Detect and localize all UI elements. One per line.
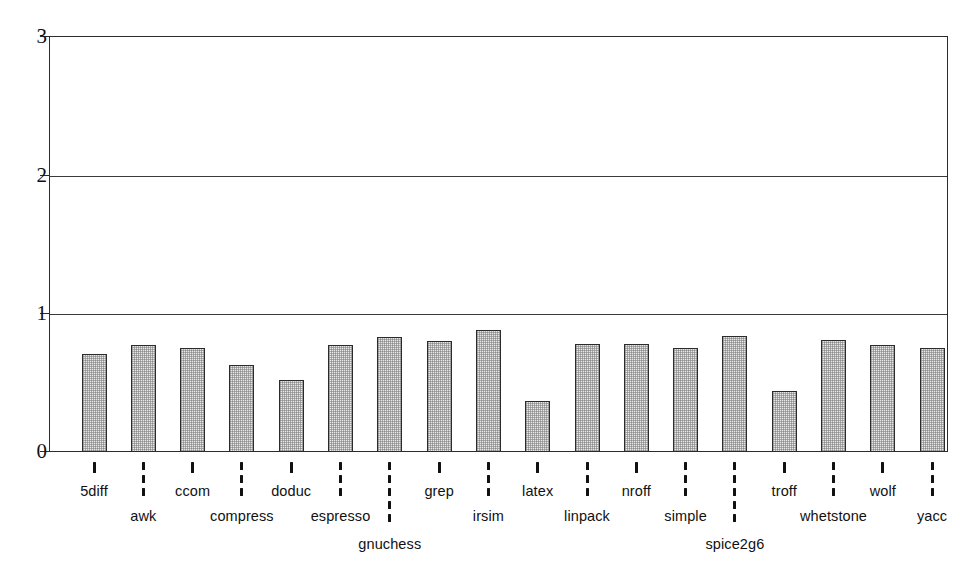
x-tick-dash: [339, 475, 342, 483]
bar: [772, 391, 797, 452]
x-tick-dash: [586, 475, 589, 483]
x-tick-dash: [142, 475, 145, 483]
bar: [180, 348, 205, 452]
x-tick-dash: [684, 488, 687, 496]
x-tick-dash: [733, 514, 736, 522]
x-tick-mark: [93, 462, 96, 473]
x-axis-label: compress: [210, 508, 274, 524]
x-axis-label: spice2g6: [705, 536, 764, 552]
bar: [82, 354, 107, 452]
x-tick-dash: [388, 475, 391, 483]
x-tick-dash: [586, 488, 589, 496]
x-axis-label: 5diff: [80, 483, 108, 499]
bar: [722, 336, 747, 452]
bar: [575, 344, 600, 452]
x-tick-dash: [388, 514, 391, 522]
x-axis-label: simple: [664, 508, 707, 524]
x-axis-label: irsim: [473, 508, 504, 524]
x-tick-mark: [783, 462, 786, 473]
x-axis-label: ccom: [175, 483, 210, 499]
x-axis-label: linpack: [564, 508, 610, 524]
bar: [821, 340, 846, 452]
bar: [427, 341, 452, 452]
bar: [377, 337, 402, 452]
bar: [131, 345, 156, 452]
x-tick-dash: [832, 475, 835, 483]
x-axis-label: latex: [522, 483, 553, 499]
x-tick-dash: [684, 475, 687, 483]
x-axis-label: grep: [424, 483, 453, 499]
bar: [229, 365, 254, 452]
x-tick-dash: [931, 475, 934, 483]
x-tick-dash: [339, 462, 342, 470]
x-axis-label: whetstone: [800, 508, 867, 524]
x-tick-dash: [832, 462, 835, 470]
bars-group: [49, 36, 948, 452]
bar: [673, 348, 698, 452]
x-tick-dash: [487, 475, 490, 483]
x-tick-dash: [142, 462, 145, 470]
x-axis-label: nroff: [622, 483, 651, 499]
x-tick-mark: [881, 462, 884, 473]
x-axis-label: yacc: [917, 508, 947, 524]
x-tick-dash: [733, 462, 736, 470]
y-tick-label-2: 2: [17, 165, 47, 186]
x-tick-dash: [240, 488, 243, 496]
y-tick-label-3: 3: [17, 26, 47, 47]
x-tick-dash: [733, 488, 736, 496]
x-tick-dash: [586, 462, 589, 470]
x-axis-label: doduc: [271, 483, 311, 499]
x-tick-dash: [733, 475, 736, 483]
bar: [920, 348, 945, 452]
x-tick-dash: [388, 501, 391, 509]
x-tick-dash: [487, 488, 490, 496]
x-tick-dash: [733, 501, 736, 509]
x-tick-dash: [240, 475, 243, 483]
bar: [328, 345, 353, 452]
bar-chart: 3 2 1 0 5diffawkccomcompressdoducespress…: [0, 0, 977, 582]
x-tick-dash: [684, 462, 687, 470]
x-axis-label: espresso: [311, 508, 371, 524]
x-tick-mark: [290, 462, 293, 473]
bar: [525, 401, 550, 452]
bar: [870, 345, 895, 452]
bar: [476, 330, 501, 452]
x-tick-dash: [142, 488, 145, 496]
x-tick-mark: [536, 462, 539, 473]
y-tick-label-1: 1: [17, 303, 47, 324]
y-tick-label-0: 0: [17, 441, 47, 462]
x-tick-dash: [931, 462, 934, 470]
x-axis-label: wolf: [870, 483, 896, 499]
bar: [624, 344, 649, 452]
x-tick-dash: [240, 462, 243, 470]
x-tick-mark: [438, 462, 441, 473]
x-tick-dash: [832, 488, 835, 496]
bar: [279, 380, 304, 452]
x-tick-dash: [339, 488, 342, 496]
x-tick-dash: [487, 462, 490, 470]
x-axis-label: troff: [772, 483, 797, 499]
x-axis-label: gnuchess: [358, 536, 421, 552]
x-tick-mark: [635, 462, 638, 473]
x-tick-dash: [388, 488, 391, 496]
x-axis-label: awk: [130, 508, 156, 524]
x-tick-dash: [388, 462, 391, 470]
x-tick-dash: [931, 488, 934, 496]
x-tick-mark: [191, 462, 194, 473]
